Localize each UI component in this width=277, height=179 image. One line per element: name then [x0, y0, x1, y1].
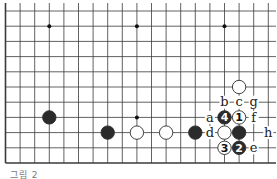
black-stone [101, 126, 114, 139]
white-stone [159, 126, 172, 139]
letter-label-d: d [206, 125, 214, 140]
white-stone-3: 3 [218, 141, 231, 155]
letter-label-h: h [264, 125, 273, 140]
star-point [223, 24, 227, 28]
letter-label-a: a [206, 110, 214, 125]
figure-caption: 그림 2 [10, 168, 39, 179]
black-stone [189, 126, 202, 139]
letter-label-g: g [250, 94, 258, 109]
letter-label-c: c [235, 94, 242, 109]
letter-label-e: e [250, 140, 258, 155]
black-stone [43, 111, 56, 124]
star-point [135, 115, 139, 119]
move-number: 3 [221, 142, 229, 155]
move-number: 1 [235, 111, 243, 124]
white-stone [232, 80, 245, 93]
star-point [47, 24, 51, 28]
star-point [135, 24, 139, 28]
move-number: 2 [235, 142, 243, 155]
white-stone [130, 126, 143, 139]
go-board: abcdefgh 1234 [0, 0, 277, 179]
white-stone [218, 126, 231, 139]
white-stone-1: 1 [232, 111, 245, 125]
black-stone-4: 4 [218, 111, 231, 125]
black-stone-2: 2 [232, 141, 245, 155]
letter-label-b: b [220, 94, 228, 109]
move-number: 4 [221, 111, 229, 124]
black-stone [232, 126, 245, 139]
